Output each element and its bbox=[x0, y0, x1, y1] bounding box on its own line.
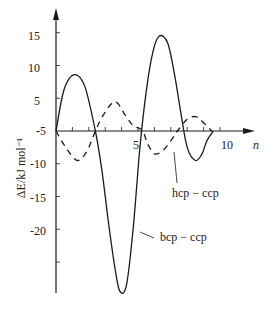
y-tick-label-neg10: -10 bbox=[30, 157, 46, 171]
x-tick-label-10: 10 bbox=[221, 138, 233, 152]
y-tick-label-neg15: -15 bbox=[30, 191, 46, 205]
y-tick-label-neg5: -5 bbox=[36, 124, 46, 138]
y-axis-arrow-icon bbox=[53, 8, 59, 20]
y-tick-label-neg20: -20 bbox=[30, 224, 46, 238]
hcp-leader-line bbox=[174, 152, 177, 183]
bcp-ccp-label: bcp − ccp bbox=[160, 230, 207, 244]
chart: 15 10 5 -5 -10 -15 -20 5 10 n ΔE/kJ mol⁻… bbox=[0, 0, 265, 310]
x-axis-arrow-icon bbox=[243, 128, 255, 134]
y-tick-label-5: 5 bbox=[34, 94, 40, 108]
x-axis-title: n bbox=[253, 138, 259, 152]
series-group bbox=[56, 35, 213, 293]
bcp-leader-line bbox=[140, 232, 154, 238]
y-axis-title: ΔE/kJ mol⁻¹ bbox=[14, 137, 28, 198]
hcp-ccp-label: hcp − ccp bbox=[172, 186, 219, 200]
y-tick-label-15: 15 bbox=[28, 29, 40, 43]
bcp-ccp-curve bbox=[56, 35, 213, 293]
y-tick-label-10: 10 bbox=[28, 61, 40, 75]
x-tick-label-5: 5 bbox=[133, 138, 139, 152]
